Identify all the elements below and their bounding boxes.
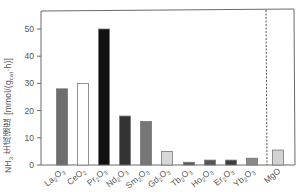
y-tick-label: 30	[25, 78, 35, 88]
bar-gd2o3	[162, 151, 173, 165]
x-tick-label: Er2 O3	[212, 165, 236, 188]
y-tick-label: 20	[25, 106, 35, 116]
ylabel-unit-close: ·h)]	[3, 58, 13, 72]
ylabel-unit: [mmol/(g	[3, 80, 13, 115]
ylabel-cat: cat	[8, 71, 14, 80]
y-axis-title: NH3 生成速度 [mmol/(gcat·h)]	[2, 40, 16, 190]
bar-er2o3	[226, 160, 237, 165]
bar-la2o3	[57, 89, 68, 165]
y-tick-label: 40	[25, 51, 35, 61]
bar-nd2o3	[120, 116, 131, 165]
x-tick-label: MgO	[262, 166, 283, 186]
x-tick-label: Sm2 O3	[124, 165, 152, 191]
y-axis: 01020304050	[25, 24, 41, 170]
bar-ho2o3	[205, 160, 216, 165]
bar-tb2o3	[184, 162, 195, 165]
bar-chart: 01020304050 La2 O3 CeO2 Pr2 O3 Nd2 O3 Sm…	[0, 0, 302, 192]
y-tick-label: 50	[25, 24, 35, 34]
separator-dashed-line	[266, 10, 267, 165]
y-tick-label: 0	[29, 160, 34, 170]
x-tick-label: CeO2	[65, 165, 89, 187]
x-tick-label: Yb2 O3	[231, 165, 257, 189]
ylabel-jp: 生成速度	[3, 114, 13, 156]
y-tick-label: 10	[25, 133, 35, 143]
bar-sm2o3	[141, 121, 152, 165]
bar-ceo2	[78, 83, 89, 165]
x-tick-label: Ho2 O3	[189, 165, 215, 190]
bar-mgo	[273, 150, 284, 165]
x-tick-label: Gd2 O3	[146, 165, 173, 190]
bar-pr2o3	[99, 29, 110, 165]
ylabel-sub: 3	[8, 156, 14, 160]
x-tick-label: Tb2 O3	[169, 165, 195, 189]
bar-yb2o3	[247, 158, 258, 165]
bars	[57, 10, 284, 165]
ylabel-nh: NH	[3, 160, 13, 173]
x-tick-label: La2 O3	[42, 165, 67, 189]
x-axis-labels: La2 O3 CeO2 Pr2 O3 Nd2 O3 Sm2 O3 Gd2 O3 …	[42, 165, 282, 191]
